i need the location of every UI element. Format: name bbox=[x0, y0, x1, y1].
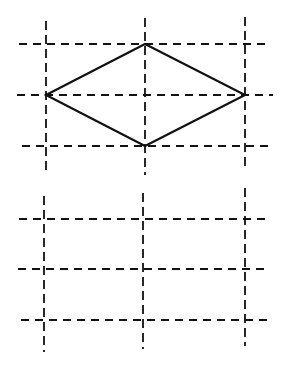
diagram-canvas bbox=[0, 0, 290, 367]
